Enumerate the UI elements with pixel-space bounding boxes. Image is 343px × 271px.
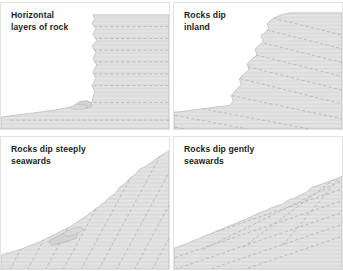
rock-mass xyxy=(174,176,342,269)
panel-dip-gently-seawards: Rocks dip gently seawards xyxy=(173,136,343,270)
panel-dip-inland: Rocks dip inland xyxy=(173,2,343,130)
panel-dip-steeply-seawards: Rocks dip steeply seawards xyxy=(0,136,170,270)
panel-caption: Rocks dip steeply seawards xyxy=(11,144,86,167)
panel-caption: Rocks dip inland xyxy=(184,10,226,33)
panel-caption: Horizontal layers of rock xyxy=(11,10,68,33)
panel-horizontal-layers: Horizontal layers of rock xyxy=(0,2,170,130)
rock-mass xyxy=(1,151,169,269)
figure-panel-grid: Horizontal layers of rock xyxy=(0,0,343,271)
panel-caption: Rocks dip gently seawards xyxy=(184,144,254,167)
